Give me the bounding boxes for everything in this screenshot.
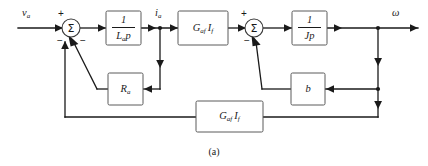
arrow-inertia-out [334,24,342,32]
signal-label-output: ω [392,7,399,18]
block-inertia-denominator: Jp [305,30,315,41]
arrow-omega-down-backemf [374,101,382,109]
arrow-current-down [156,60,164,68]
block-inductance-numerator: 1 [121,14,126,25]
wire-damping-diagonal-to-sum2 [256,42,262,89]
arrow-inductance-out [148,24,156,32]
signal-label-current: ia [155,7,162,20]
sum-2-sigma-glyph: Σ [251,22,258,35]
block-damping-label: b [305,83,310,94]
arrow-sum1-to-inductance [98,24,106,32]
arrow-omega-down-damping [374,58,382,66]
block-diagram-figure: Σ + − − Σ + − 1 Lap Gaf If 1 Jp Ra b Gaf… [0,0,428,166]
block-inertia-numerator: 1 [307,14,312,25]
figure-caption: (a) [208,146,219,158]
arrow-into-torque [170,24,178,32]
sum-2-sign-input: + [241,8,247,19]
arrow-into-resistance [144,85,152,93]
wire-resistance-diagonal-to-sum1 [74,42,98,89]
arrow-output [410,24,418,32]
sum-1-sign-input: + [58,8,64,19]
signal-label-input: va [22,7,31,20]
sum-1-sign-feedback-left: − [57,35,63,46]
arrow-into-inertia [284,24,292,32]
sum-1-sign-feedback-right: − [80,35,86,46]
arrow-into-damping [326,85,334,93]
sum-2-sign-feedback-left: − [244,35,250,46]
block-diagram-canvas: Σ + − − Σ + − 1 Lap Gaf If 1 Jp Ra b Gaf… [0,0,428,166]
sum-1-sigma-glyph: Σ [68,22,75,35]
